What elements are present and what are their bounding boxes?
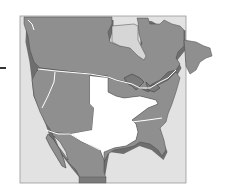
map-bottom-strip [79,177,106,183]
region-maritimes [184,40,212,74]
north-america-map [0,0,229,196]
left-dash-marker [0,67,6,69]
